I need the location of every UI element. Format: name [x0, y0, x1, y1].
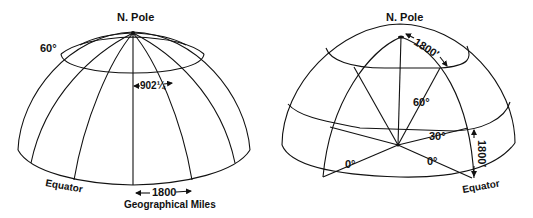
right-0-left-label: 0° [345, 158, 356, 170]
right-0-right-label: 0° [427, 155, 438, 167]
left-902-label: 902¼ [140, 80, 166, 91]
left-units-label: Geographical Miles [124, 199, 216, 210]
right-radius-60-left [354, 67, 398, 145]
left-60-label: 60° [40, 42, 57, 54]
left-arrow-right [164, 83, 172, 84]
right-radius-0-left [323, 145, 398, 177]
right-center-point [396, 143, 399, 146]
left-1800-label: 1800 [152, 186, 176, 198]
right-arc-side-label: 1800′ [476, 140, 488, 167]
right-arrow-top-start [406, 34, 414, 38]
right-parallel-60 [326, 46, 469, 68]
right-pole-point [398, 35, 404, 38]
left-pole-label: N. Pole [117, 11, 154, 23]
right-30-label: 30° [429, 130, 446, 142]
right-radius-30-left [330, 127, 398, 145]
left-meridian-3 [133, 33, 192, 180]
right-60-label: 60° [413, 96, 430, 108]
globe-diagrams: N. Pole 60° 902¼ Equator 1800 Geographic… [0, 0, 533, 218]
left-pole-point [131, 31, 135, 35]
left-arrow-1800-right [176, 191, 191, 192]
right-arc-top-label: 1800′ [412, 36, 442, 61]
right-equator-label: Equator [461, 178, 500, 195]
left-meridian-1 [74, 33, 133, 180]
left-hemisphere [18, 31, 250, 193]
right-pole-label: N. Pole [386, 11, 423, 23]
right-arrow-top-end [440, 57, 447, 66]
